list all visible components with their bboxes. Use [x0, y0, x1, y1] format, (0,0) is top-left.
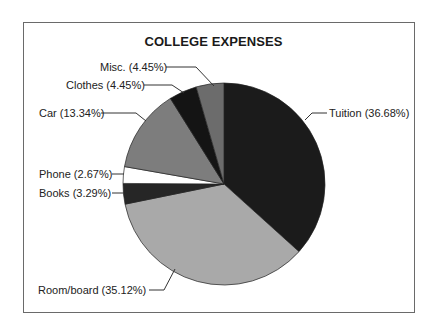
leader-misc — [166, 67, 214, 86]
leader-tuition — [305, 113, 327, 120]
label-car: Car (13.34%) — [39, 107, 104, 119]
leader-car — [101, 113, 146, 121]
label-room-board: Room/board (35.12%) — [38, 284, 146, 296]
label-clothes: Clothes (4.45%) — [66, 79, 145, 91]
leader-room — [149, 269, 175, 290]
leader-clothes — [144, 85, 184, 93]
label-books: Books (3.29%) — [39, 187, 111, 199]
label-misc: Misc. (4.45%) — [100, 61, 167, 73]
label-tuition: Tuition (36.68%) — [329, 107, 409, 119]
label-phone: Phone (2.67%) — [39, 168, 112, 180]
